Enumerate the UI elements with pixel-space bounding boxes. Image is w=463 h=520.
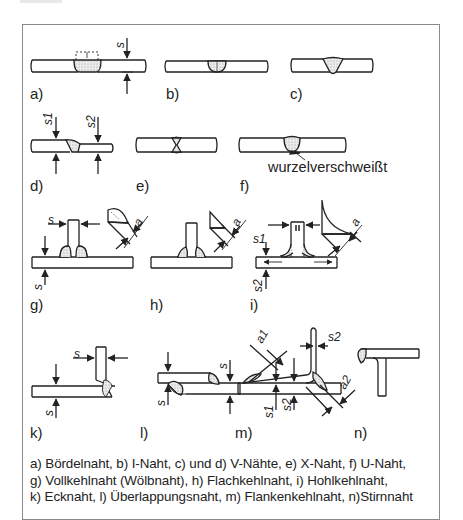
dim-s2-i: s2	[251, 279, 265, 292]
panel-label-n: n)	[354, 424, 367, 441]
panel-label-g: g)	[30, 296, 43, 313]
dim-s1-m: s1	[262, 405, 276, 418]
panel-label-m: m)	[235, 424, 253, 441]
panel-b-drawing	[165, 61, 268, 72]
panel-k-drawing	[32, 347, 128, 418]
panel-i-drawing	[256, 200, 362, 289]
panel-label-d: d)	[30, 177, 43, 194]
dim-s2-m-base: s2	[280, 398, 294, 411]
dim-a-h: a	[228, 215, 244, 228]
dim-s2-d: s2	[84, 115, 98, 128]
panel-label-e: e)	[136, 177, 149, 194]
panel-label-c: c)	[290, 85, 303, 102]
dim-s-g-web: s	[48, 213, 54, 227]
panel-label-k: k)	[30, 424, 43, 441]
dim-s-a: s	[113, 42, 127, 48]
dim-a1-m: a1	[252, 327, 271, 346]
panel-label-b: b)	[166, 85, 179, 102]
dim-s-l-left: s	[154, 400, 168, 406]
panel-f-drawing	[239, 137, 346, 161]
dim-a-g: a	[130, 215, 146, 228]
panel-c-drawing	[291, 58, 373, 74]
panel-label-l: l)	[140, 424, 148, 441]
figure-caption: a) Bördelnaht, b) I-Naht, c) und d) V-Nä…	[30, 456, 440, 506]
panel-label-a: a)	[30, 85, 43, 102]
panel-a-drawing	[31, 38, 146, 94]
panel-n-drawing	[358, 349, 419, 396]
dim-s-g-base: s	[31, 284, 45, 290]
caption-line-3: k) Ecknaht, l) Überlappungsnaht, m) Flan…	[30, 489, 440, 506]
panel-l-drawing	[158, 352, 240, 414]
dim-s-l-right: s	[216, 363, 230, 369]
caption-line-1: a) Bördelnaht, b) I-Naht, c) und d) V-Nä…	[30, 456, 440, 473]
panel-label-i: i)	[250, 296, 258, 313]
dim-a2-m: a2	[335, 373, 354, 392]
dim-s-k-web: s	[74, 347, 80, 361]
panel-label-f: f)	[240, 177, 249, 194]
dim-s1-d: s1	[41, 112, 55, 125]
dim-s-k-base: s	[42, 410, 56, 416]
dim-s1-i: s1	[253, 232, 266, 246]
panel-label-h: h)	[150, 296, 163, 313]
caption-line-2: g) Vollkehlnaht (Wölbnaht), h) Flachkehl…	[30, 473, 440, 490]
root-welded-annotation: wurzelverschweißt	[268, 159, 387, 175]
panel-e-drawing	[136, 137, 217, 153]
dim-s2-m-web: s2	[328, 330, 341, 344]
